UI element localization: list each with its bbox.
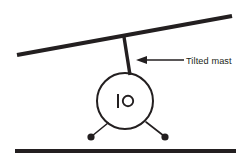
- annotation-label-tilted-mast: Tilted mast: [186, 56, 232, 66]
- body-circle: [97, 73, 153, 129]
- mast-line: [124, 37, 130, 75]
- annotation-arrow-head-icon: [136, 56, 147, 64]
- right-foot-dot: [161, 133, 168, 140]
- right-leg: [146, 122, 164, 136]
- tilted-mast-diagram: Tilted mast: [0, 0, 249, 161]
- diagram-canvas: Tilted mast: [0, 0, 249, 161]
- instrument-glyph-ring-icon: [123, 96, 133, 106]
- left-foot-dot: [87, 133, 94, 140]
- left-leg: [92, 123, 108, 136]
